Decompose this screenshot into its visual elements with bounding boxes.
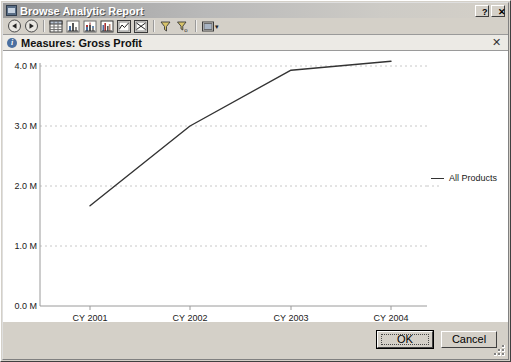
toolbar-separator-2 (153, 20, 155, 32)
ok-button[interactable]: OK (377, 331, 433, 348)
chart-panel: 0.0 M 1.0 M 2.0 M 3.0 M 4.0 M CY 2001 CY… (3, 51, 508, 321)
x-tick-label-cy2004: CY 2004 (356, 313, 426, 321)
grouped-bar-button[interactable] (99, 19, 115, 34)
svg-text:o: o (184, 27, 188, 33)
export-button[interactable] (200, 19, 216, 34)
y-tick-label-3: 3.0 M (3, 121, 37, 131)
help-button[interactable]: ? (475, 5, 489, 17)
ok-button-label: OK (397, 333, 413, 345)
measures-close-icon[interactable]: ✕ (490, 37, 503, 48)
y-tick-label-1: 1.0 M (3, 241, 37, 251)
forward-button[interactable] (23, 19, 39, 34)
scatter-chart-button[interactable] (133, 19, 149, 34)
filter-button[interactable] (158, 19, 174, 34)
x-tick-label-cy2001: CY 2001 (55, 313, 125, 321)
cancel-button[interactable]: Cancel (441, 331, 497, 348)
window-title: Browse Analytic Report (20, 5, 475, 17)
table-view-button[interactable] (48, 19, 64, 34)
toolbar-separator-3 (195, 20, 197, 32)
close-button[interactable]: ✕ (491, 5, 505, 17)
resize-grip-icon[interactable] (494, 345, 506, 357)
clear-filter-button[interactable]: o (175, 19, 191, 34)
line-chart-plot (3, 51, 508, 321)
report-window-icon (6, 5, 17, 16)
measures-label: Measures: Gross Profit (21, 37, 490, 49)
x-tick-label-cy2002: CY 2002 (155, 313, 225, 321)
legend-swatch-all-products (431, 178, 444, 179)
toolbar-separator (43, 20, 45, 32)
bar-chart-button[interactable] (65, 19, 81, 34)
window-controls: ? ✕ (475, 5, 505, 17)
x-tick-label-cy2003: CY 2003 (256, 313, 326, 321)
y-tick-label-0: 0.0 M (3, 301, 37, 311)
chart-legend: All Products (431, 173, 497, 183)
title-bar[interactable]: Browse Analytic Report ? ✕ (3, 3, 508, 18)
browse-analytic-report-window: Browse Analytic Report ? ✕ (0, 0, 511, 362)
y-tick-label-4: 4.0 M (3, 61, 37, 71)
dialog-footer: OK Cancel (3, 321, 508, 359)
measures-bar: i Measures: Gross Profit ✕ (3, 35, 508, 51)
stacked-bar-button[interactable] (82, 19, 98, 34)
info-icon: i (7, 38, 17, 48)
back-button[interactable] (6, 19, 22, 34)
y-tick-label-2: 2.0 M (3, 181, 37, 191)
legend-label-all-products: All Products (449, 173, 497, 183)
toolbar: o ▾ (3, 18, 508, 35)
line-chart-button[interactable] (116, 19, 132, 34)
